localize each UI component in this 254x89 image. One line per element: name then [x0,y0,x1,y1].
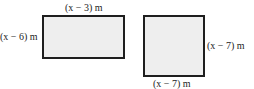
square-bottom-label: (x − 7) m [153,78,191,89]
square-side-label: (x − 7) m [207,40,245,51]
rectangle-shape [42,15,125,59]
rectangle-width-label: (x − 3) m [65,2,103,13]
rectangle-height-label: (x − 6) m [0,31,38,42]
square-shape [143,15,205,77]
